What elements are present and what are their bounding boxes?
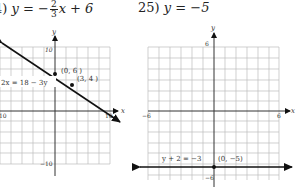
point-0-6 [53, 72, 57, 76]
left-graph-axes [0, 36, 118, 176]
point-0-neg5-label: (0, −5) [218, 155, 243, 163]
point-3-4 [70, 83, 74, 87]
point-3-4-label: (3, 4 ) [77, 75, 98, 83]
graphs-canvas: y x 10 −10 10 −10 (0, 6 ) (3, 4 ) 2x = 1… [0, 0, 296, 187]
right-x-min-label: −6 [142, 112, 151, 119]
left-y-min-label: −10 [40, 160, 53, 167]
right-y-min-label: −6 [205, 174, 214, 181]
left-line-equation-label: 2x = 18 − 3y [1, 79, 47, 87]
left-y-axis-label: y [51, 28, 57, 36]
right-x-axis-label: x [291, 107, 295, 115]
left-y-max-label: 10 [45, 46, 53, 53]
left-x-axis-label: x [121, 107, 125, 115]
right-x-max-label: 6 [277, 112, 281, 119]
point-0-neg5 [212, 165, 216, 169]
right-y-axis-label: y [210, 24, 216, 32]
left-x-min-label: −10 [0, 112, 7, 119]
point-0-6-label: (0, 6 ) [61, 67, 82, 75]
right-line-equation-label: y + 2 = −3 [161, 155, 201, 163]
right-y-max-label: 6 [205, 40, 209, 47]
